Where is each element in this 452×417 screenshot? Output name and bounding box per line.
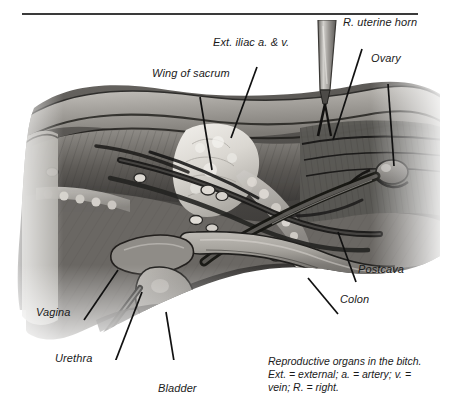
label-bladder: Bladder xyxy=(158,382,197,394)
caption-line-2: Ext. = external; a. = artery; v. = xyxy=(268,368,448,381)
caption-line-3: vein; R. = right. xyxy=(268,381,448,394)
label-urethra: Urethra xyxy=(55,352,92,364)
top-horizontal-rule xyxy=(22,13,418,15)
label-colon: Colon xyxy=(340,293,369,305)
label-wing-of-sacrum: Wing of sacrum xyxy=(152,67,230,79)
label-ovary: Ovary xyxy=(371,52,401,64)
label-postcava: Postcava xyxy=(358,263,404,275)
caption-line-1: Reproductive organs in the bitch. xyxy=(268,355,448,368)
label-vagina: Vagina xyxy=(36,306,70,318)
label-ext-iliac-artery-vein: Ext. iliac a. & v. xyxy=(213,36,289,48)
figure-page: Ext. iliac a. & v. R. uterine horn Wing … xyxy=(0,0,452,417)
label-right-uterine-horn: R. uterine horn xyxy=(343,16,417,28)
figure-caption: Reproductive organs in the bitch. Ext. =… xyxy=(268,355,448,394)
